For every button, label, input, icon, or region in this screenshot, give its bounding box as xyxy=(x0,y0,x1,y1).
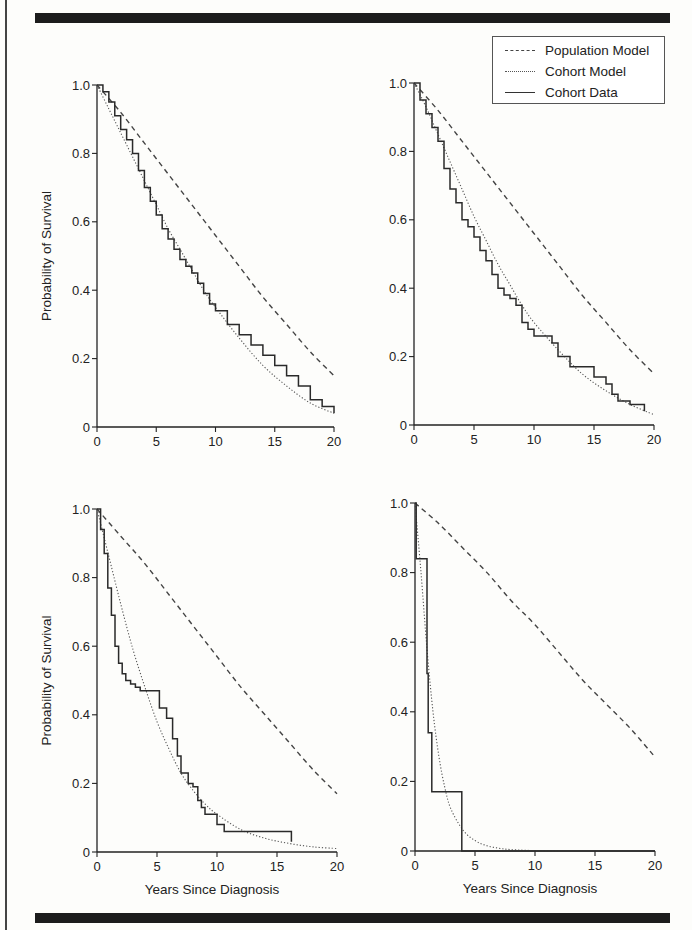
x-axis-title: Years Since Diagnosis xyxy=(145,882,280,897)
y-tick-label: 0.2 xyxy=(390,774,408,789)
y-tick-label: 0.4 xyxy=(72,283,90,298)
legend-label: Cohort Model xyxy=(545,64,626,79)
x-tick-label: 15 xyxy=(268,434,282,449)
y-axis-title: Probability of Survival xyxy=(39,191,54,321)
y-tick-label: 0.4 xyxy=(390,704,408,719)
legend-item-cohort-data: Cohort Data xyxy=(493,83,664,102)
x-tick-label: 10 xyxy=(208,434,222,449)
dashed-line-icon xyxy=(505,50,535,51)
x-axis-title: Years Since Diagnosis xyxy=(463,881,598,896)
y-tick-label: 1.0 xyxy=(72,502,90,517)
cohort-model-line xyxy=(414,83,654,415)
y-tick-label: 0.8 xyxy=(72,570,90,585)
y-tick-label: 0.6 xyxy=(72,214,90,229)
y-tick-label: 0.6 xyxy=(389,212,407,227)
y-tick-label: 0.8 xyxy=(390,565,408,580)
y-axis-title: Probability of Survival xyxy=(39,616,54,746)
legend: Population Model Cohort Model Cohort Dat… xyxy=(492,36,665,104)
x-tick-label: 5 xyxy=(470,432,477,447)
y-tick-label: 0.4 xyxy=(389,281,407,296)
x-tick-label: 10 xyxy=(210,859,224,874)
y-tick-label: 0 xyxy=(401,844,408,859)
solid-line-icon xyxy=(505,92,535,93)
x-tick-label: 20 xyxy=(327,434,341,449)
population-model-line xyxy=(97,509,337,794)
y-tick-label: 1.0 xyxy=(390,496,408,511)
legend-item-population-model: Population Model xyxy=(493,41,664,60)
x-tick-label: 20 xyxy=(647,432,661,447)
x-tick-label: 5 xyxy=(471,858,478,873)
x-tick-label: 5 xyxy=(153,859,160,874)
x-tick-label: 0 xyxy=(93,859,100,874)
chart-bottom-right: 0510152000.20.40.60.81.0Years Since Diag… xyxy=(390,496,662,897)
population-model-line xyxy=(97,85,334,376)
x-tick-label: 0 xyxy=(411,858,418,873)
cohort-data-line xyxy=(97,85,334,413)
x-tick-label: 10 xyxy=(527,432,541,447)
y-tick-label: 0.6 xyxy=(72,639,90,654)
cohort-model-line xyxy=(415,503,559,851)
y-tick-label: 0.6 xyxy=(390,635,408,650)
chart-top-right: 0510152000.20.40.60.81.0 xyxy=(389,76,661,448)
cohort-data-line xyxy=(414,83,644,411)
legend-label: Cohort Data xyxy=(545,85,618,100)
x-tick-label: 15 xyxy=(587,432,601,447)
x-tick-label: 15 xyxy=(270,859,284,874)
y-tick-label: 0 xyxy=(83,420,90,435)
y-tick-label: 0.2 xyxy=(72,776,90,791)
y-tick-label: 0.8 xyxy=(72,146,90,161)
y-tick-label: 1.0 xyxy=(72,78,90,93)
y-tick-label: 0 xyxy=(83,845,90,860)
x-tick-label: 20 xyxy=(330,859,344,874)
y-tick-label: 0.2 xyxy=(389,349,407,364)
population-model-line xyxy=(415,503,655,757)
dotted-line-icon xyxy=(505,71,535,72)
bottom-rule xyxy=(35,913,670,923)
y-tick-label: 0 xyxy=(400,418,407,433)
cohort-model-line xyxy=(97,85,334,413)
x-tick-label: 0 xyxy=(93,434,100,449)
plots-canvas: 0510152000.20.40.60.81.0Probability of S… xyxy=(0,0,692,930)
x-tick-label: 15 xyxy=(588,858,602,873)
cohort-model-line xyxy=(97,509,337,849)
chart-bottom-left: 0510152000.20.40.60.81.0Years Since Diag… xyxy=(39,502,344,898)
y-tick-label: 1.0 xyxy=(389,76,407,91)
y-tick-label: 0.4 xyxy=(72,707,90,722)
cohort-data-line xyxy=(415,503,655,851)
x-tick-label: 10 xyxy=(528,858,542,873)
legend-label: Population Model xyxy=(545,43,649,58)
x-tick-label: 5 xyxy=(153,434,160,449)
y-tick-label: 0.2 xyxy=(72,351,90,366)
legend-item-cohort-model: Cohort Model xyxy=(493,62,664,81)
x-tick-label: 20 xyxy=(648,858,662,873)
cohort-data-line xyxy=(97,509,291,842)
x-tick-label: 0 xyxy=(410,432,417,447)
y-tick-label: 0.8 xyxy=(389,144,407,159)
chart-top-left: 0510152000.20.40.60.81.0Probability of S… xyxy=(39,78,341,450)
